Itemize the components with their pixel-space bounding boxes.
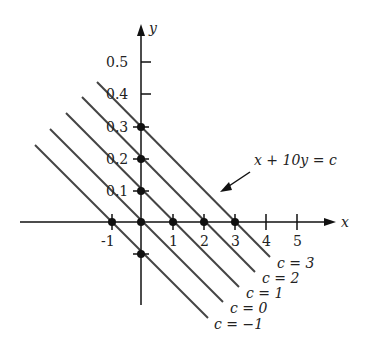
x-tick-label: 3 <box>231 233 240 249</box>
x-tick-label: 1 <box>169 233 178 249</box>
x-tick-label: 5 <box>293 233 302 249</box>
x-tick-label: -1 <box>101 233 115 249</box>
line-label-c-3: c = 3 <box>277 255 314 271</box>
y-tick-label: 0.2 <box>106 151 128 167</box>
level-lines <box>35 82 270 318</box>
line-label-c-minus-1: c = −1 <box>214 316 263 332</box>
y-axis-arrow-icon <box>137 24 145 36</box>
y-tick-label: 0.3 <box>106 119 128 135</box>
line-label-c-2: c = 2 <box>262 270 299 286</box>
y-axis-label: y <box>148 20 158 36</box>
line-label-c-0: c = 0 <box>230 300 267 316</box>
y-tick-label: 0.5 <box>106 54 128 70</box>
level-line-c-minus-1 <box>35 145 208 318</box>
pointer-arrowhead-icon <box>220 182 232 192</box>
y-axis <box>141 32 151 305</box>
level-line-c-0 <box>50 129 223 302</box>
x-tick-label: 4 <box>262 233 271 249</box>
line-label-c-1: c = 1 <box>246 285 283 301</box>
level-lines-diagram: x y -1 1 2 3 4 5 0.1 0.2 0.3 0.4 0.5 x +… <box>0 0 366 357</box>
y-tick-label: 0.1 <box>106 183 128 199</box>
x-axis-label: x <box>341 214 349 230</box>
x-axis-arrow-icon <box>324 218 336 226</box>
y-tick-label: 0.4 <box>106 86 128 102</box>
equation-label: x + 10y = c <box>254 152 337 168</box>
x-tick-label: 2 <box>200 233 209 249</box>
